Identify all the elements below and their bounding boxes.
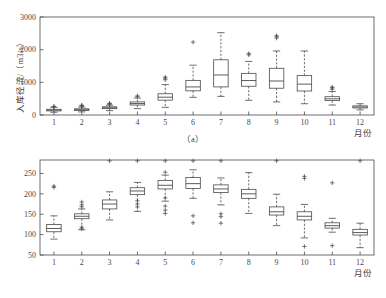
x-tick-label: 2 [80,118,84,127]
box-plot-group [158,159,172,216]
box-plot-group [214,33,228,97]
box-plot-group [130,94,144,109]
box-plot-group [353,159,367,248]
x-tick-label: 4 [135,258,139,267]
x-tick-label: 9 [275,258,279,267]
x-axis-title: 月份 [354,268,372,278]
box-plot-group [47,184,61,239]
y-tick-label: 200 [24,190,36,199]
box-plot-group [242,173,256,214]
box-plot-group [47,104,61,112]
panel-a-plot-area: 0100020003000123456789101112月份 [0,0,386,150]
y-tick-label: 150 [24,210,36,219]
x-tick-label: 10 [300,118,308,127]
x-tick-label: 5 [163,118,167,127]
y-tick-label: 1000 [20,78,36,87]
y-tick-label: 50 [28,251,36,260]
x-tick-label: 11 [328,258,336,267]
box-plot-group [75,200,89,231]
x-tick-label: 7 [219,258,223,267]
box-plot-group [269,159,283,226]
box-plot-group [297,51,311,104]
x-tick-label: 2 [80,258,84,267]
x-tick-label: 12 [356,118,364,127]
x-tick-label: 8 [247,118,251,127]
x-tick-label: 3 [108,258,112,267]
box-plot-group [214,159,228,226]
y-tick-label: 3000 [20,13,36,22]
y-tick-label: 250 [24,169,36,178]
x-tick-label: 5 [163,258,167,267]
box-plot-group [102,159,116,220]
x-tick-label: 4 [135,118,139,127]
plot-frame [40,17,374,115]
x-tick-label: 1 [52,118,56,127]
x-tick-label: 8 [247,258,251,267]
box-plot-group [102,101,116,111]
x-tick-label: 6 [191,118,195,127]
x-tick-label: 9 [275,118,279,127]
panel-b-plot-area: 50100150200250123456789101112月份 [0,148,386,298]
x-tick-label: 6 [191,258,195,267]
x-tick-label: 11 [328,118,336,127]
box-plot-group [186,40,200,97]
box-plot-group [242,51,256,100]
box-plot-group [325,85,339,105]
box-plot-group [186,159,200,225]
x-tick-label: 12 [356,258,364,267]
panel-b-power-output: 发电出力/MW 50100150200250123456789101112月份 … [0,148,386,298]
box-plot-group [297,174,311,249]
x-tick-label: 1 [52,258,56,267]
box-plot-group [130,159,144,212]
box-plot-group [353,104,367,110]
plot-frame [40,160,374,255]
y-tick-label: 0 [32,111,36,120]
box-plot-group [158,75,172,107]
panel-a-inflow-runoff: 入库径流/（m3/s） 0100020003000123456789101112… [0,0,386,150]
panel-a-caption: （a） [0,132,386,144]
x-tick-label: 3 [108,118,112,127]
x-tick-label: 10 [300,258,308,267]
box-plot-group [269,33,283,102]
boxplot-figure: 入库径流/（m3/s） 0100020003000123456789101112… [0,0,386,298]
y-tick-label: 2000 [20,45,36,54]
y-tick-label: 100 [24,230,36,239]
box-plot-group [325,181,339,248]
x-tick-label: 7 [219,118,223,127]
box-plot-group [75,103,89,112]
